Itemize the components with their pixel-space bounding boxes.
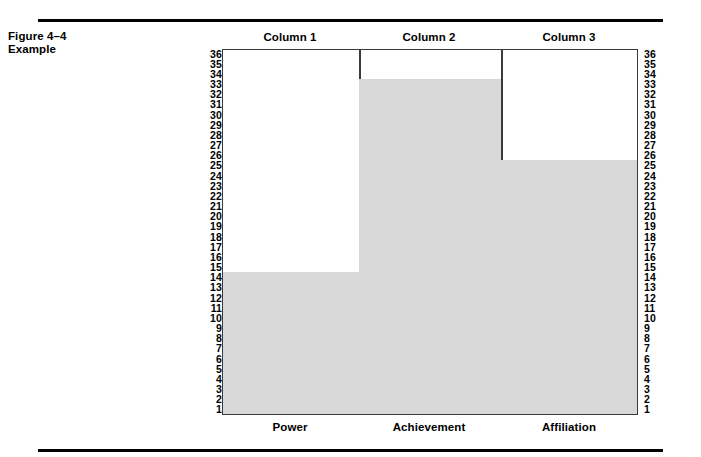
figure-caption-line2: Example (8, 43, 67, 56)
category-labels: Power Achievement Affiliation (222, 421, 638, 437)
rule-top (38, 19, 663, 22)
y-tick-label: 1 (644, 404, 674, 415)
y-axis-right: 3635343332313029282726252423222120191817… (644, 49, 674, 415)
category-label-achievement: Achievement (358, 421, 500, 433)
y-axis-left: 3635343332313029282726252423222120191817… (192, 49, 222, 415)
rule-bottom (38, 449, 663, 452)
column-header-3: Column 3 (500, 31, 638, 43)
column-header-2: Column 2 (358, 31, 500, 43)
bar-power (223, 272, 359, 414)
category-label-power: Power (222, 421, 358, 433)
column-header-1: Column 1 (222, 31, 358, 43)
figure-caption: Figure 4–4 Example (8, 30, 67, 56)
y-tick-label: 1 (192, 404, 222, 415)
figure-caption-line1: Figure 4–4 (8, 30, 67, 43)
column-headers: Column 1 Column 2 Column 3 (222, 31, 638, 47)
category-label-affiliation: Affiliation (500, 421, 638, 433)
chart-bars (223, 50, 637, 414)
bar-achievement (359, 79, 501, 415)
chart-plot-area (222, 49, 638, 415)
bar-affiliation (501, 160, 637, 414)
